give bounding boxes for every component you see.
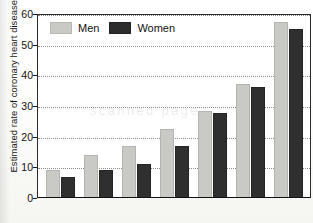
bar-women-3 <box>137 164 151 197</box>
bar-women-6 <box>251 87 265 197</box>
bar-men-7 <box>274 22 288 197</box>
y-tick-label-60: 60 <box>13 9 33 20</box>
bar-women-4 <box>175 146 189 197</box>
bar-group <box>79 15 117 197</box>
y-tick-mark-60 <box>33 14 37 15</box>
bar-group <box>117 15 155 197</box>
y-tick-label-20: 20 <box>13 132 33 143</box>
y-tick-label-10: 10 <box>13 162 33 173</box>
y-tick-label-30: 30 <box>13 101 33 112</box>
y-tick-label-40: 40 <box>13 70 33 81</box>
bar-women-7 <box>289 29 303 197</box>
y-tick-mark-20 <box>33 137 37 138</box>
bar-men-2 <box>84 155 98 197</box>
chart-figure: Estimated rate of coronary heart disease… <box>0 0 313 223</box>
y-tick-label-50: 50 <box>13 40 33 51</box>
bar-men-6 <box>236 84 250 197</box>
bar-women-2 <box>99 170 113 197</box>
bar-men-3 <box>122 146 136 197</box>
bar-women-5 <box>213 113 227 197</box>
bar-group <box>155 15 193 197</box>
bar-men-1 <box>46 170 60 197</box>
bar-men-4 <box>160 129 174 197</box>
bar-women-1 <box>61 177 75 197</box>
plot-area: scanned page Men Women <box>37 14 311 198</box>
y-tick-mark-30 <box>33 106 37 107</box>
bar-group <box>194 15 232 197</box>
y-axis-tick-labels: 0102030405060 <box>13 0 33 223</box>
bar-groups <box>38 15 310 197</box>
y-tick-mark-0 <box>33 198 37 199</box>
bar-group <box>270 15 308 197</box>
y-tick-mark-10 <box>33 167 37 168</box>
bar-group <box>41 15 79 197</box>
bar-men-5 <box>198 111 212 197</box>
y-tick-mark-50 <box>33 45 37 46</box>
bar-group <box>232 15 270 197</box>
y-tick-mark-40 <box>33 75 37 76</box>
y-tick-label-0: 0 <box>13 193 33 204</box>
